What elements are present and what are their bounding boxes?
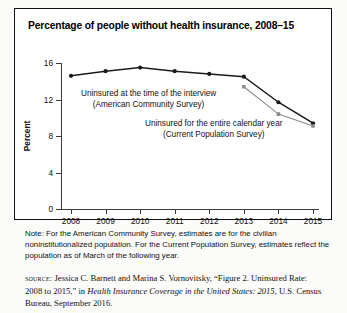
- y-tick-label: 0: [48, 204, 53, 214]
- data-point: [103, 69, 107, 73]
- x-axis-line: [61, 209, 319, 210]
- annotation-acs: Uninsured at the time of the interview (…: [81, 89, 216, 111]
- x-tick: [140, 209, 141, 214]
- data-point: [311, 124, 315, 128]
- data-point: [242, 75, 246, 79]
- x-tick-label: 2013: [235, 216, 253, 226]
- y-axis-label: Percent: [22, 121, 32, 152]
- x-tick: [313, 209, 314, 214]
- chart-frame: Percentage of people without health insu…: [14, 8, 332, 220]
- x-tick: [175, 209, 176, 214]
- annotation-cps-line2: (Current Population Survey): [145, 130, 282, 141]
- annotation-cps: Uninsured for the entire calendar year (…: [145, 119, 282, 141]
- annotation-acs-line2: (American Community Survey): [81, 100, 216, 111]
- figure-source: source: Jessica C. Barnett and Marina S.…: [25, 272, 325, 310]
- x-tick: [209, 209, 210, 214]
- y-tick-label: 8: [48, 131, 53, 141]
- y-tick-label: 12: [44, 95, 53, 105]
- x-tick-label: 2010: [131, 216, 149, 226]
- data-point: [173, 69, 177, 73]
- source-italic-title: Health Insurance Coverage in the United …: [87, 286, 274, 296]
- x-tick-label: 2012: [200, 216, 218, 226]
- x-tick-label: 2014: [269, 216, 287, 226]
- annotation-cps-line1: Uninsured for the entire calendar year: [145, 119, 282, 130]
- page-title: Percentage of people without health insu…: [28, 20, 294, 31]
- y-tick-label: 4: [48, 168, 53, 178]
- data-point: [242, 85, 246, 89]
- x-tick-label: 2011: [166, 216, 184, 226]
- x-tick: [106, 209, 107, 214]
- data-point: [138, 65, 142, 69]
- plot-area: 0481216 20082009201020112012201320142015…: [61, 63, 319, 209]
- y-tick: [56, 209, 61, 210]
- x-tick-label: 2009: [96, 216, 114, 226]
- figure-note: Note: For the American Community Survey,…: [25, 228, 331, 262]
- x-tick: [71, 209, 72, 214]
- x-tick-label: 2015: [304, 216, 322, 226]
- x-tick-label: 2008: [62, 216, 80, 226]
- figure-panel: Percentage of people without health insu…: [0, 0, 347, 313]
- source-label: source:: [25, 274, 52, 283]
- data-point: [276, 100, 280, 104]
- data-point: [207, 72, 211, 76]
- x-tick: [244, 209, 245, 214]
- annotation-acs-line1: Uninsured at the time of the interview: [81, 89, 216, 100]
- x-tick: [278, 209, 279, 214]
- y-tick-label: 16: [44, 58, 53, 68]
- data-point: [277, 112, 281, 116]
- data-point: [69, 74, 73, 78]
